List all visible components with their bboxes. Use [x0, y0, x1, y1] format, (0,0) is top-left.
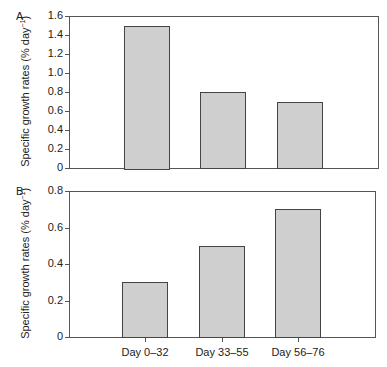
- x-tick-mark: [222, 338, 223, 342]
- y-tick-mark: [65, 228, 69, 229]
- y-tick-mark: [65, 73, 69, 74]
- y-tick-mark: [65, 149, 69, 150]
- x-category-label: Day 33–55: [182, 346, 262, 358]
- y-tick-mark: [65, 54, 69, 55]
- bar-a-3: [277, 102, 323, 169]
- x-tick-mark: [298, 338, 299, 342]
- y-tick-label: 0: [33, 330, 63, 342]
- y-tick-label: 0.6: [33, 104, 63, 116]
- y-tick-mark: [65, 264, 69, 265]
- y-tick-label: 0.4: [33, 257, 63, 269]
- y-tick-mark: [65, 130, 69, 131]
- y-tick-label: 0.4: [33, 123, 63, 135]
- y-tick-mark: [65, 92, 69, 93]
- y-tick-mark: [65, 337, 69, 338]
- y-tick-label: 1.0: [33, 66, 63, 78]
- y-tick-label: 0: [33, 161, 63, 173]
- y-tick-mark: [65, 168, 69, 169]
- x-category-label: Day 56–76: [258, 346, 338, 358]
- bar-b-3: [275, 209, 321, 338]
- panel-b-y-axis-label: Specific growth rates (% day−1): [19, 178, 32, 348]
- y-tick-mark: [65, 111, 69, 112]
- x-category-label: Day 0–32: [105, 346, 185, 358]
- bar-a-2: [200, 92, 246, 169]
- y-tick-label: 1.4: [33, 28, 63, 40]
- panel-a-y-axis-label: Specific growth rates (% day−1): [19, 6, 32, 176]
- y-tick-mark: [65, 191, 69, 192]
- y-tick-label: 0.8: [33, 85, 63, 97]
- y-tick-label: 0.8: [33, 184, 63, 196]
- y-tick-label: 1.6: [33, 9, 63, 21]
- y-tick-mark: [65, 35, 69, 36]
- y-tick-label: 0.2: [33, 294, 63, 306]
- bar-b-2: [199, 246, 245, 338]
- y-tick-mark: [65, 301, 69, 302]
- y-tick-label: 0.6: [33, 221, 63, 233]
- bar-a-1: [124, 26, 170, 170]
- bar-b-1: [122, 282, 168, 338]
- x-tick-mark: [145, 338, 146, 342]
- y-tick-label: 0.2: [33, 142, 63, 154]
- y-tick-label: 1.2: [33, 47, 63, 59]
- y-tick-mark: [65, 16, 69, 17]
